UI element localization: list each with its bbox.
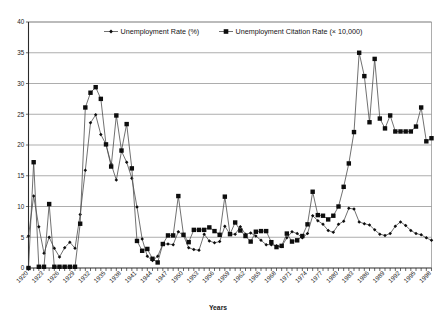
marker-square (290, 239, 294, 243)
marker-square (326, 217, 330, 221)
marker-square (352, 130, 356, 134)
marker-square (47, 202, 51, 206)
marker-square (124, 122, 128, 126)
marker-square (31, 160, 35, 164)
marker-square (197, 228, 201, 232)
marker-square (429, 136, 433, 140)
marker-square (409, 129, 413, 133)
legend-label-0: Unemployment Rate (%) (121, 27, 200, 36)
marker-square (393, 129, 397, 133)
marker-square (243, 234, 247, 238)
marker-square (140, 249, 144, 253)
marker-square (217, 233, 221, 237)
marker-square (83, 105, 87, 109)
marker-square (73, 265, 77, 269)
marker-square (264, 229, 268, 233)
marker-square (192, 228, 196, 232)
marker-square (135, 239, 139, 243)
legend-square-icon (224, 29, 229, 34)
marker-square (119, 148, 123, 152)
marker-square (388, 113, 392, 117)
marker-square (62, 265, 66, 269)
marker-square (372, 57, 376, 61)
marker-square (166, 233, 170, 237)
marker-square (145, 247, 149, 251)
marker-square (341, 185, 345, 189)
marker-square (300, 234, 304, 238)
marker-square (223, 194, 227, 198)
marker-square (212, 229, 216, 233)
marker-square (150, 257, 154, 261)
marker-square (383, 126, 387, 130)
y-tick-label-15: 15 (17, 172, 25, 179)
marker-square (347, 161, 351, 165)
marker-square (37, 265, 41, 269)
marker-square (254, 230, 258, 234)
marker-square (419, 105, 423, 109)
marker-square (26, 266, 30, 270)
y-tick-label-20: 20 (17, 141, 25, 148)
y-tick-label-10: 10 (17, 203, 25, 210)
marker-square (316, 213, 320, 217)
marker-square (305, 222, 309, 226)
marker-square (161, 242, 165, 246)
marker-square (207, 225, 211, 229)
marker-square (109, 164, 113, 168)
marker-square (202, 228, 206, 232)
marker-square (93, 85, 97, 89)
marker-square (52, 265, 56, 269)
marker-square (176, 194, 180, 198)
marker-square (274, 245, 278, 249)
marker-square (248, 239, 252, 243)
marker-square (310, 190, 314, 194)
marker-square (362, 74, 366, 78)
marker-square (331, 214, 335, 218)
marker-square (279, 244, 283, 248)
marker-square (228, 232, 232, 236)
x-axis-title-label: Years (209, 304, 227, 311)
chart-figure: 0510152025303540 19201923192619291932193… (0, 0, 441, 319)
y-tick-label-30: 30 (17, 80, 25, 87)
marker-square (424, 139, 428, 143)
marker-square (259, 229, 263, 233)
marker-square (186, 240, 190, 244)
marker-square (130, 166, 134, 170)
marker-square (269, 240, 273, 244)
y-tick-label-40: 40 (17, 18, 25, 25)
marker-square (295, 238, 299, 242)
marker-square (68, 265, 72, 269)
marker-square (155, 260, 159, 264)
marker-square (78, 222, 82, 226)
marker-square (321, 214, 325, 218)
y-tick-label-35: 35 (17, 49, 25, 56)
marker-square (99, 97, 103, 101)
marker-square (181, 233, 185, 237)
marker-square (42, 265, 46, 269)
chart-background (0, 0, 441, 319)
x-axis-title: Years (209, 304, 227, 311)
marker-square (367, 120, 371, 124)
marker-square (285, 231, 289, 235)
marker-square (357, 51, 361, 55)
marker-square (414, 124, 418, 128)
marker-square (403, 129, 407, 133)
marker-square (233, 220, 237, 224)
marker-square (336, 204, 340, 208)
marker-square (114, 113, 118, 117)
y-tick-label-5: 5 (21, 234, 25, 241)
marker-square (88, 91, 92, 95)
marker-square (378, 116, 382, 120)
marker-square (398, 129, 402, 133)
marker-square (104, 142, 108, 146)
marker-square (171, 233, 175, 237)
unemployment-line-chart: 0510152025303540 19201923192619291932193… (0, 0, 441, 319)
legend-label-1: Unemployment Citation Rate (× 10,000) (236, 27, 363, 36)
marker-square (57, 265, 61, 269)
y-tick-label-25: 25 (17, 111, 25, 118)
marker-square (238, 228, 242, 232)
